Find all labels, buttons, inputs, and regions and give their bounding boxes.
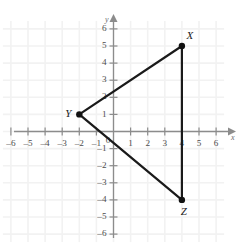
y-tick-label: 5: [102, 40, 107, 50]
x-axis-label: x: [230, 133, 235, 142]
y-tick-label: –6: [96, 228, 107, 238]
x-tick-label: 3: [163, 138, 168, 148]
vertex-label-z: Z: [181, 205, 188, 217]
y-axis-arrow-icon: [110, 14, 118, 22]
y-tick-label: –5: [96, 211, 107, 221]
y-tick-label: 6: [102, 23, 107, 33]
x-tick-label: 1: [128, 138, 133, 148]
y-tick-label: 3: [102, 74, 107, 84]
x-tick-label: 6: [214, 138, 219, 148]
y-tick-label: –3: [96, 177, 107, 187]
x-tick-label: –2: [74, 138, 85, 148]
y-tick-label: 1: [102, 109, 107, 119]
axes: [14, 14, 236, 238]
x-tick-label: 2: [145, 138, 150, 148]
vertex-dot-x: [179, 43, 185, 49]
y-tick-label: –2: [96, 160, 107, 170]
coordinate-plane-figure: –6–5–4–3–2–1123456654321–1–2–3–4–5–6 x y…: [0, 0, 248, 246]
y-tick-label: 4: [102, 57, 107, 67]
y-axis-label: y: [104, 15, 109, 24]
x-tick-label: –5: [22, 138, 33, 148]
vertex-label-x: X: [186, 29, 195, 41]
x-tick-label: –4: [40, 138, 51, 148]
x-tick-label: –3: [57, 138, 68, 148]
x-tick-label: –6: [5, 138, 16, 148]
vertex-dot-z: [179, 197, 185, 203]
coordinate-grid-svg: –6–5–4–3–2–1123456654321–1–2–3–4–5–6 x y…: [0, 0, 248, 246]
vertex-label-y: Y: [65, 107, 73, 119]
x-tick-label: 5: [197, 138, 202, 148]
vertex-dot-y: [76, 111, 82, 117]
y-tick-label: –4: [96, 194, 107, 204]
